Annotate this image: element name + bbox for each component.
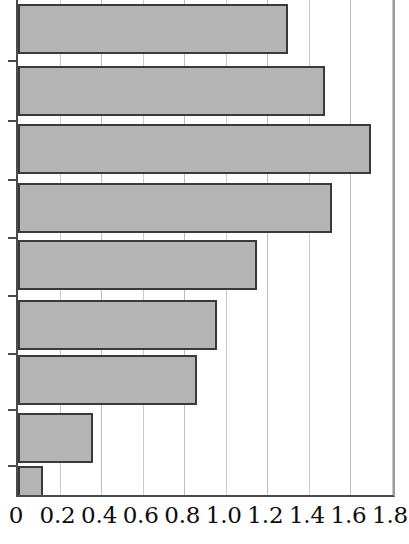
plot-area (16, 0, 395, 497)
bar (18, 66, 325, 116)
x-axis-tick-label: 0 (9, 500, 23, 530)
bar (18, 183, 332, 233)
x-axis-tick-label: 0.8 (164, 500, 200, 530)
x-axis-tick-label: 1.2 (247, 500, 283, 530)
x-axis-tick-label: 1.6 (330, 500, 366, 530)
x-axis-tick-label: 0.2 (40, 500, 76, 530)
y-axis-tick (8, 465, 17, 467)
x-axis-tick-labels: 00.20.40.60.81.01.21.41.61.8 (0, 500, 409, 544)
bar (18, 4, 288, 54)
y-axis-tick (8, 179, 17, 181)
y-axis-tick (8, 60, 17, 62)
x-axis-tick-label: 0.4 (81, 500, 117, 530)
y-axis-tick (8, 295, 17, 297)
x-axis-tick-label: 0.6 (123, 500, 159, 530)
bar (18, 300, 217, 350)
bar (18, 124, 371, 174)
bar (18, 466, 43, 497)
bar (18, 413, 93, 463)
bar (18, 355, 197, 405)
gridline-1.6 (350, 0, 351, 495)
y-axis-tick (8, 409, 17, 411)
x-axis-tick-label: 1.0 (206, 500, 242, 530)
x-axis-tick-label: 1.4 (289, 500, 325, 530)
y-axis-tick (8, 120, 17, 122)
x-axis-tick-label: 1.8 (372, 500, 408, 530)
gridline-1.8 (392, 0, 393, 495)
y-axis-tick (8, 237, 17, 239)
bar-chart: 00.20.40.60.81.01.21.41.61.8 (0, 0, 409, 544)
bar (18, 240, 257, 290)
y-axis-tick (8, 353, 17, 355)
